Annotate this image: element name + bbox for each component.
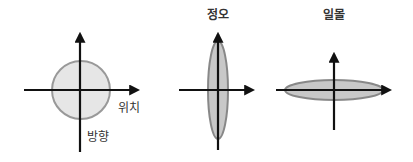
x-axis-label: 위치 <box>118 101 140 115</box>
diagram-sunset: 일몰 <box>276 8 390 130</box>
diagram-title-sunset: 일몰 <box>323 8 345 22</box>
diagram-noon: 정오 <box>179 7 253 150</box>
y-axis-label: 방향 <box>87 130 109 144</box>
diagram-title-noon: 정오 <box>207 7 229 22</box>
diagram-circle: 위치 방향 <box>24 34 140 152</box>
phase-space-diagrams: 위치 방향 정오 일몰 <box>0 0 413 162</box>
